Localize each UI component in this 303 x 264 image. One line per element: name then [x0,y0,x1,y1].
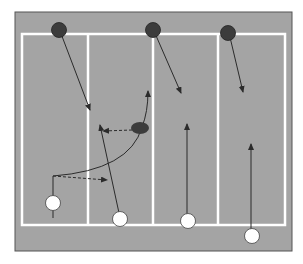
ball [131,122,149,134]
attacker-player-1 [46,196,61,211]
defender-player-1 [52,23,67,38]
defender-player-2 [146,23,161,38]
defender-player-3 [221,26,236,41]
attacker-player-2 [113,212,128,227]
attacker-player-4 [245,229,260,244]
play-diagram [0,0,303,264]
attacker-player-3 [181,214,196,229]
